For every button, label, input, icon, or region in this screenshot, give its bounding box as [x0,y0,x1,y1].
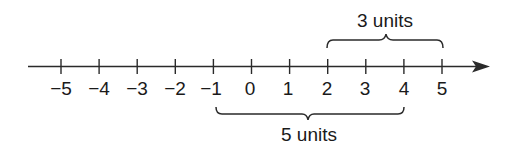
tick-label-neg2: −2 [164,78,186,99]
brace-label-5-units: 5 units [281,124,337,145]
tick-label-neg5: −5 [50,78,72,99]
number-line-diagram: −5 −4 −3 −2 −1 0 1 2 3 4 5 3 units 5 uni… [0,0,517,148]
brace-bottom-5-units [216,107,404,120]
tick-label-1: 1 [283,78,294,99]
tick-label-0: 0 [245,78,256,99]
tick-label-2: 2 [322,78,333,99]
tick-label-neg1: −1 [200,78,222,99]
tick-label-3: 3 [360,78,371,99]
tick-label-4: 4 [399,78,410,99]
tick-label-neg3: −3 [126,78,148,99]
brace-label-3-units: 3 units [357,10,413,31]
tick-label-neg4: −4 [88,78,110,99]
brace-top-3-units [327,34,443,48]
tick-labels: −5 −4 −3 −2 −1 0 1 2 3 4 5 [50,78,447,99]
tick-label-5: 5 [437,78,448,99]
